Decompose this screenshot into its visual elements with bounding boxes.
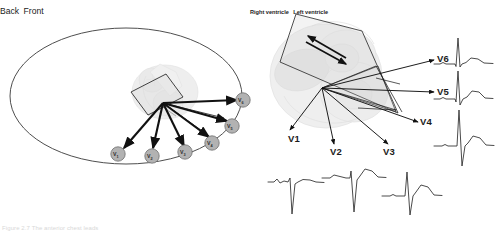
- electrode-v6: [236, 93, 250, 107]
- lead-label-v4: V4: [420, 116, 432, 127]
- electrode-v2: [145, 149, 159, 163]
- electrode-v1: [111, 147, 125, 161]
- right-diagram-svg: [250, 0, 502, 231]
- lead-label-v6: V6: [437, 53, 449, 64]
- electrode-v3: [178, 145, 192, 159]
- left-diagram-panel: Back Front: [0, 0, 252, 231]
- figure-caption: Figure 2.7 The anterior chest leads: [2, 225, 98, 231]
- lead-label-v5: V5: [437, 86, 449, 97]
- electrode-v5: [225, 119, 239, 133]
- lead-label-v3: V3: [383, 146, 395, 157]
- ecg-trace-v4: [434, 110, 494, 166]
- lead-label-v2: V2: [330, 146, 342, 157]
- left-diagram-svg: [0, 0, 252, 231]
- right-diagram-panel: Right ventricle Left ventricle V1 V2 V3 …: [250, 0, 502, 231]
- ecg-trace-v3: [382, 172, 442, 215]
- ecg-trace-v2: [322, 169, 386, 212]
- electrode-v4: [205, 136, 219, 150]
- ecg-trace-v1: [268, 178, 324, 214]
- lead-label-v1: V1: [288, 133, 300, 144]
